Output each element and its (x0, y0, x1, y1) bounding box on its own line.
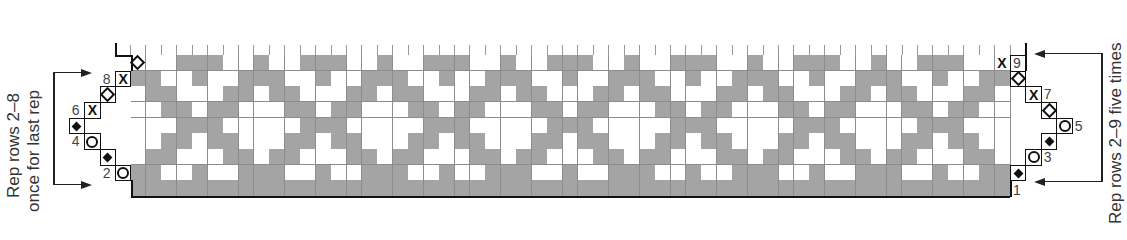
chart-cell-contrast (933, 180, 949, 196)
chart-cell-main (300, 86, 316, 102)
chart-cell-contrast (701, 180, 717, 196)
chart-cell-contrast (902, 102, 918, 118)
chart-cell-main (516, 118, 532, 134)
chart-cell-main (655, 165, 671, 181)
chart-cell-main (208, 86, 224, 102)
chart-cell-main (331, 86, 347, 102)
chart-cell-contrast (516, 149, 532, 165)
grid-stub (269, 45, 270, 55)
grid-stub (593, 45, 594, 55)
chart-cell-contrast (439, 118, 455, 134)
chart-cell-main (701, 86, 717, 102)
chart-cell-contrast (779, 102, 795, 118)
grid-stub (763, 45, 764, 55)
chart-cell-contrast (578, 180, 594, 196)
chart-cell-contrast (131, 180, 147, 196)
chart-cell-contrast (331, 102, 347, 118)
chart-cell-main (763, 133, 779, 149)
chart-cell-main (578, 71, 594, 87)
grid-stub (500, 45, 501, 55)
grid-stub (716, 45, 717, 55)
chart-edge-cell (100, 86, 116, 103)
chart-cell-contrast (208, 55, 224, 71)
chart-cell-contrast (701, 133, 717, 149)
chart-cell-main (161, 165, 177, 181)
chart-cell-main (177, 86, 193, 102)
chart-cell-contrast (948, 118, 964, 134)
chart-cell-contrast (917, 180, 933, 196)
grid-stub (624, 45, 625, 55)
chart-cell-main (779, 118, 795, 134)
chart-cell-contrast (686, 118, 702, 134)
chart-border (1010, 180, 1012, 197)
chart-cell-main (439, 133, 455, 149)
chart-cell-contrast (563, 165, 579, 181)
chart-cell-main (917, 149, 933, 165)
chart-cell-contrast (732, 149, 748, 165)
chart-cell-contrast (269, 71, 285, 87)
chart-cell-contrast (933, 165, 949, 181)
chart-cell-main (131, 133, 147, 149)
chart-cell-main (532, 165, 548, 181)
chart-cell-contrast (516, 165, 532, 181)
grid-stub (577, 45, 578, 55)
chart-cell-main (516, 133, 532, 149)
row-number-8: 8 (103, 72, 111, 86)
chart-cell-contrast (840, 180, 856, 196)
filled-diamond-symbol-icon (72, 121, 82, 131)
chart-cell-main (161, 71, 177, 87)
chart-cell-main (748, 133, 764, 149)
chart-cell-contrast (532, 102, 548, 118)
chart-cell-main (563, 86, 579, 102)
grid-stub (963, 45, 964, 55)
chart-cell-contrast (563, 71, 579, 87)
chart-cell-contrast (547, 102, 563, 118)
chart-cell-main (146, 102, 162, 118)
grid-stub (176, 45, 177, 55)
circle-symbol-icon (86, 136, 98, 148)
chart-cell-contrast (439, 180, 455, 196)
chart-cell-main (161, 118, 177, 134)
chart-cell-contrast (177, 55, 193, 71)
row-number-1: 1 (1013, 183, 1021, 197)
chart-cell-symbol (131, 55, 147, 71)
chart-cell-main (871, 133, 887, 149)
grid-stub (531, 45, 532, 55)
chart-cell-contrast (331, 55, 347, 71)
chart-cell-contrast (902, 133, 918, 149)
chart-cell-main (671, 149, 687, 165)
chart-cell-main (331, 149, 347, 165)
chart-cell-contrast (254, 180, 270, 196)
chart-cell-main (686, 102, 702, 118)
chart-cell-contrast (748, 71, 764, 87)
chart-cell-contrast (239, 149, 255, 165)
chart-cell-contrast (609, 165, 625, 181)
chart-cell-main (995, 86, 1011, 102)
arrow-right-icon (81, 69, 92, 77)
chart-cell-main (316, 86, 332, 102)
chart-cell-contrast (254, 165, 270, 181)
chart-cell-main (917, 71, 933, 87)
grid-stub (346, 45, 347, 55)
x-symbol-icon: X (1029, 88, 1038, 102)
chart-cell-main (840, 71, 856, 87)
chart-cell-main (825, 165, 841, 181)
filled-diamond-symbol-icon (1013, 168, 1023, 178)
grid-stub (608, 45, 609, 55)
chart-cell-main (887, 133, 903, 149)
chart-cell-main (593, 55, 609, 71)
chart-cell-contrast (547, 180, 563, 196)
chart-cell-contrast (655, 133, 671, 149)
chart-cell-contrast (424, 118, 440, 134)
chart-cell-contrast (563, 118, 579, 134)
chart-cell-contrast (578, 118, 594, 134)
chart-cell-contrast (285, 86, 301, 102)
chart-edge-cell (100, 149, 116, 166)
grid-stub (253, 45, 254, 55)
chart-cell-main (285, 71, 301, 87)
chart-cell-main (624, 86, 640, 102)
chart-cell-main (593, 118, 609, 134)
chart-border (131, 196, 1011, 198)
chart-cell-contrast (902, 86, 918, 102)
chart-cell-main (794, 149, 810, 165)
